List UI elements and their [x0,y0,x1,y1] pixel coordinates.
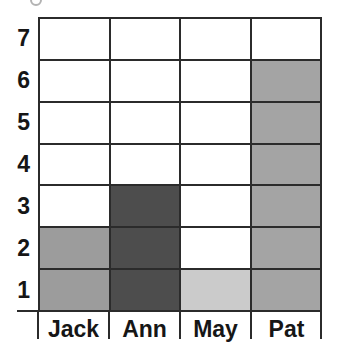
filled-cell [252,103,321,143]
empty-cell [40,61,109,101]
y-axis-tick-label: 5 [0,101,30,143]
x-axis-category-label: Pat [251,315,322,343]
y-axis-tick-label: 3 [0,186,30,228]
y-axis: 7654321 [0,17,30,312]
empty-cell [111,145,180,185]
empty-cell [181,103,250,143]
x-axis-category-label: Jack [38,315,109,343]
empty-cell [111,61,180,101]
filled-cell [40,228,109,268]
filled-cell [252,186,321,226]
y-axis-tick-label: 6 [0,59,30,101]
y-axis-tick-label: 4 [0,143,30,185]
empty-cell [181,19,250,59]
x-axis-category-label: May [180,315,251,343]
empty-cell [40,186,109,226]
empty-cell [181,145,250,185]
x-axis-category-label: Ann [109,315,180,343]
filled-cell [111,228,180,268]
empty-cell [40,19,109,59]
empty-cell [111,103,180,143]
y-axis-tick-label: 7 [0,17,30,59]
empty-cell [111,19,180,59]
x-axis-baseline-tick [17,310,39,312]
filled-cell [181,270,250,310]
filled-cell [252,228,321,268]
filled-cell [252,61,321,101]
y-axis-tick-label: 2 [0,228,30,270]
x-axis: JackAnnMayPat [38,315,322,343]
empty-cell [252,19,321,59]
empty-cell [181,186,250,226]
cropped-text-fragment [30,0,42,6]
chart-grid [38,17,322,312]
filled-cell [40,270,109,310]
empty-cell [181,61,250,101]
block-bar-chart: 7654321 JackAnnMayPat [0,0,337,362]
empty-cell [181,228,250,268]
filled-cell [111,270,180,310]
filled-cell [252,270,321,310]
empty-cell [40,145,109,185]
y-axis-tick-label: 1 [0,270,30,312]
filled-cell [252,145,321,185]
filled-cell [111,186,180,226]
empty-cell [40,103,109,143]
